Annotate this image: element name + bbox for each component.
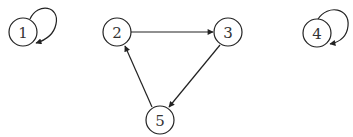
node-4: 4	[303, 19, 331, 47]
edge-5-to-2	[125, 46, 152, 107]
edge-3-to-5	[169, 45, 220, 107]
node-5: 5	[146, 106, 174, 134]
node-label: 2	[112, 24, 122, 42]
node-1: 1	[9, 18, 37, 46]
node-3: 3	[214, 18, 242, 46]
node-label: 3	[223, 24, 233, 42]
node-label: 4	[312, 25, 322, 43]
node-label: 5	[155, 112, 165, 130]
node-label: 1	[18, 24, 28, 42]
node-2: 2	[103, 18, 131, 46]
graph-canvas: 1 2 3 4 5	[0, 0, 353, 137]
